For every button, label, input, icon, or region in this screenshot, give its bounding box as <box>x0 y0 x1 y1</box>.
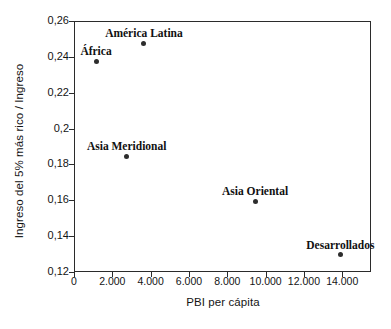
data-point <box>253 199 258 204</box>
y-tick-label: 0,2 <box>9 123 69 134</box>
y-tick-mark <box>69 57 74 58</box>
x-tick-mark <box>342 272 343 277</box>
x-tick-mark <box>74 272 75 277</box>
x-tick-mark <box>227 272 228 277</box>
x-axis-title: PBI per cápita <box>74 296 372 308</box>
data-point-label: América Latina <box>105 27 183 39</box>
x-tick-mark <box>112 272 113 277</box>
y-tick-mark <box>69 164 74 165</box>
data-point-label: Asia Oriental <box>222 185 288 197</box>
y-axis-title: Ingreso del 5% más rico / Ingreso <box>8 6 30 296</box>
y-tick-label: 0,16 <box>9 194 69 205</box>
x-tick-mark <box>151 272 152 277</box>
data-point <box>94 59 99 64</box>
x-tick-mark <box>304 272 305 277</box>
y-tick-mark <box>69 21 74 22</box>
x-tick-mark <box>266 272 267 277</box>
y-tick-label: 0,24 <box>9 51 69 62</box>
y-tick-label: 0,18 <box>9 158 69 169</box>
data-point-label: África <box>80 45 111 57</box>
y-tick-mark <box>69 200 74 201</box>
data-point-label: Desarrollados <box>306 239 374 251</box>
y-tick-mark <box>69 236 74 237</box>
y-tick-label: 0,22 <box>9 87 69 98</box>
y-tick-mark <box>69 93 74 94</box>
data-point-label: Asia Meridional <box>87 140 167 152</box>
y-tick-label: 0,14 <box>9 230 69 241</box>
x-tick-label: 14.000 <box>307 276 377 287</box>
x-tick-mark <box>189 272 190 277</box>
y-tick-label: 0,26 <box>9 15 69 26</box>
y-tick-mark <box>69 129 74 130</box>
scatter-chart: Ingreso del 5% más rico / Ingreso 0,260,… <box>0 0 391 329</box>
